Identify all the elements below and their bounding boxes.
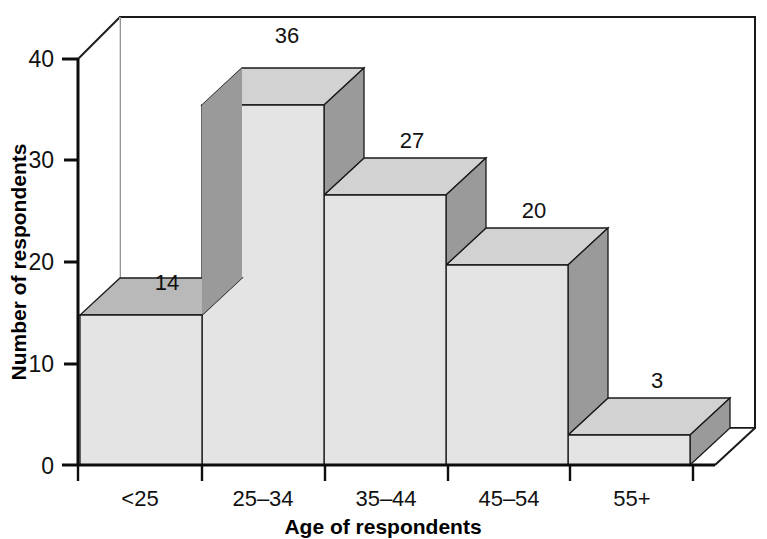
y-axis: 40 30 20 10 0 Number of respondents xyxy=(7,46,78,479)
value-label-55plus: 3 xyxy=(651,368,663,393)
x-axis-title: Age of respondents xyxy=(284,515,481,538)
y-tick-10: 10 xyxy=(28,351,54,377)
y-axis-title: Number of respondents xyxy=(7,144,30,381)
x-tick-55plus: 55+ xyxy=(613,486,650,511)
chart-canvas: 40 30 20 10 0 Number of respondents <25 … xyxy=(0,0,767,539)
value-label-35-44: 27 xyxy=(400,128,424,153)
x-tick-35-44: 35–44 xyxy=(355,486,416,511)
value-label-under-25: 14 xyxy=(155,270,179,295)
bar-chart-3d: 40 30 20 10 0 Number of respondents <25 … xyxy=(0,0,767,539)
value-label-45-54: 20 xyxy=(522,198,546,223)
y-tick-0: 0 xyxy=(41,453,54,479)
y-tick-30: 30 xyxy=(28,147,54,173)
x-tick-25-34: 25–34 xyxy=(232,486,293,511)
y-tick-40: 40 xyxy=(28,46,54,72)
y-tick-20: 20 xyxy=(28,249,54,275)
x-tick-under-25: <25 xyxy=(121,486,158,511)
x-tick-45-54: 45–54 xyxy=(478,486,539,511)
value-label-25-34: 36 xyxy=(275,23,299,48)
x-axis: <25 25–34 35–44 45–54 55+ Age of respond… xyxy=(78,465,715,538)
